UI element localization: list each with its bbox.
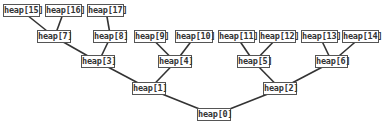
tree-node-heap-2: heap[2] bbox=[263, 82, 297, 95]
tree-node-heap-10: heap[10] bbox=[175, 30, 213, 43]
tree-node-heap-4: heap[4] bbox=[158, 55, 192, 68]
tree-node-heap-1: heap[1] bbox=[132, 82, 166, 95]
tree-node-heap-17: heap[17] bbox=[87, 4, 124, 17]
tree-node-heap-6: heap[6] bbox=[315, 55, 348, 68]
tree-node-heap-3: heap[3] bbox=[81, 55, 115, 68]
tree-node-heap-9: heap[9] bbox=[134, 30, 166, 43]
tree-node-heap-7: heap[7] bbox=[37, 30, 71, 43]
tree-node-heap-0: heap[0] bbox=[197, 108, 231, 121]
tree-node-heap-14: heap[14] bbox=[342, 30, 379, 43]
tree-node-heap-5: heap[5] bbox=[237, 55, 270, 68]
tree-node-heap-11: heap[11] bbox=[218, 30, 255, 43]
tree-node-heap-13: heap[13] bbox=[301, 30, 338, 43]
tree-node-heap-15: heap[15] bbox=[3, 4, 40, 17]
tree-node-heap-12: heap[12] bbox=[259, 30, 296, 43]
tree-node-heap-8: heap[8] bbox=[93, 30, 127, 43]
tree-node-heap-16: heap[16] bbox=[45, 4, 82, 17]
heap-tree-diagram: heap[0]heap[1]heap[2]heap[3]heap[4]heap[… bbox=[0, 0, 382, 126]
